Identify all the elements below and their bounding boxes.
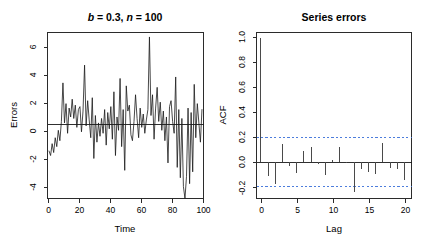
left-ytick-neg2: -2 bbox=[28, 155, 38, 163]
acf-plot-frame bbox=[257, 33, 412, 199]
left-ytick-6: 6 bbox=[28, 44, 38, 49]
acf-ytick-0-2: 0.2 bbox=[237, 131, 247, 143]
acf-xtick-10: 10 bbox=[329, 205, 339, 215]
left-ytick-2: 2 bbox=[28, 100, 38, 105]
left-title-n-val: = 100 bbox=[133, 11, 163, 23]
acf-svg: Series errors 1.0 0.8 0.6 0.4 0.2 0.0 -0… bbox=[212, 0, 423, 250]
left-y-axis: 6 4 2 0 -2 -4 bbox=[28, 44, 48, 190]
left-xtick-60: 60 bbox=[137, 205, 147, 215]
acf-y-axis: 1.0 0.8 0.6 0.4 0.2 0.0 -0.2 bbox=[237, 31, 257, 196]
acf-bar-group bbox=[261, 38, 405, 192]
acf-xtick-0: 0 bbox=[259, 205, 264, 215]
acf-xtick-20: 20 bbox=[401, 205, 411, 215]
acf-ytick-1-0: 1.0 bbox=[237, 31, 247, 43]
left-xtick-20: 20 bbox=[75, 205, 85, 215]
panel-acf: Series errors 1.0 0.8 0.6 0.4 0.2 0.0 -0… bbox=[212, 0, 423, 250]
errors-series-line bbox=[49, 37, 202, 199]
acf-ytick-0-0: 0.0 bbox=[237, 156, 247, 168]
left-xtick-40: 40 bbox=[106, 205, 116, 215]
left-xtick-80: 80 bbox=[168, 205, 178, 215]
left-ytick-4: 4 bbox=[28, 72, 38, 77]
acf-ytick-neg0-2: -0.2 bbox=[237, 180, 247, 195]
figure-root: b = 0.3, n = 100 6 4 2 0 -2 -4 Errors bbox=[0, 0, 423, 250]
acf-y-axis-title: ACF bbox=[217, 105, 228, 124]
panel-time-series: b = 0.3, n = 100 6 4 2 0 -2 -4 Errors bbox=[0, 0, 211, 250]
acf-x-axis-title: Lag bbox=[326, 223, 342, 234]
left-xtick-100: 100 bbox=[196, 205, 210, 215]
left-x-axis: 0 20 40 60 80 100 bbox=[46, 199, 211, 216]
right-plot-title: Series errors bbox=[302, 11, 367, 23]
left-y-axis-title: Errors bbox=[8, 102, 19, 128]
left-title-b-val: = 0.3, bbox=[94, 11, 126, 23]
acf-ytick-0-6: 0.6 bbox=[237, 81, 247, 93]
left-x-axis-title: Time bbox=[115, 223, 136, 234]
acf-ytick-0-4: 0.4 bbox=[237, 106, 247, 118]
acf-ytick-0-8: 0.8 bbox=[237, 56, 247, 68]
left-plot-title: b = 0.3, n = 100 bbox=[88, 11, 163, 23]
acf-xtick-5: 5 bbox=[295, 205, 300, 215]
left-xtick-0: 0 bbox=[46, 205, 51, 215]
left-ytick-neg4: -4 bbox=[28, 183, 38, 191]
acf-xtick-15: 15 bbox=[365, 205, 375, 215]
acf-x-axis: 0 5 10 15 20 bbox=[259, 199, 410, 216]
left-ytick-0: 0 bbox=[28, 128, 38, 133]
time-series-svg: b = 0.3, n = 100 6 4 2 0 -2 -4 Errors bbox=[0, 0, 211, 250]
